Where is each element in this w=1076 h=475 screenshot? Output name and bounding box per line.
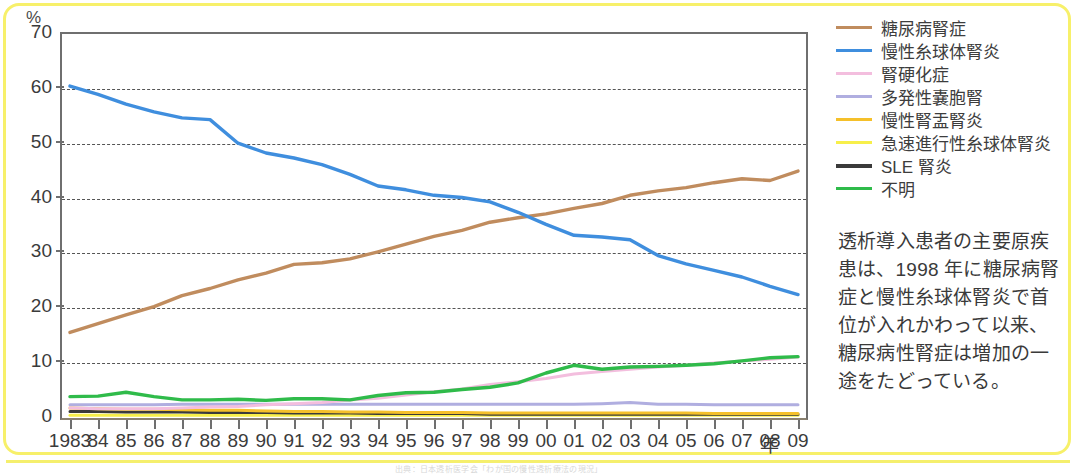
x-tick-label-84: 84	[87, 430, 108, 452]
legend-item-4[interactable]: 慢性腎盂腎炎	[836, 108, 1068, 131]
x-tick-label-06: 06	[703, 430, 724, 452]
caption-text: 透析導入患者の主要原疾患は、1998 年に糖尿病腎症と慢性糸球体腎炎で首位が入れ…	[838, 228, 1064, 396]
x-tick-label-97: 97	[451, 430, 472, 452]
x-tick-mark-93	[350, 420, 352, 429]
x-tick-label-00: 00	[535, 430, 556, 452]
x-tick-mark-97	[462, 420, 464, 429]
x-tick-label-98: 98	[479, 430, 500, 452]
legend-item-6[interactable]: SLE 腎炎	[836, 154, 1068, 177]
chart-page: 出典：日本透析医学会「わが国の慢性透析療法の現況」 % 010203040506…	[0, 0, 1076, 475]
x-tick-mark-04	[658, 420, 660, 429]
x-tick-label-95: 95	[395, 430, 416, 452]
x-tick-label-04: 04	[647, 430, 668, 452]
x-tick-mark-07	[742, 420, 744, 429]
legend-label: 糖尿病腎症	[881, 15, 966, 40]
x-tick-label-89: 89	[227, 430, 248, 452]
x-tick-mark-99	[518, 420, 520, 429]
legend-label: 急速進行性糸球体腎炎	[881, 130, 1051, 155]
series-line-3	[70, 403, 798, 405]
legend-swatch-icon	[836, 49, 872, 52]
y-tick-label-60: 60	[6, 76, 52, 98]
x-tick-label-02: 02	[591, 430, 612, 452]
chart-legend: 糖尿病腎症慢性糸球体腎炎腎硬化症多発性嚢胞腎慢性腎盂腎炎急速進行性糸球体腎炎SL…	[836, 16, 1068, 200]
legend-swatch-icon	[836, 26, 872, 29]
x-tick-label-87: 87	[171, 430, 192, 452]
x-tick-label-85: 85	[115, 430, 136, 452]
y-tick-label-30: 30	[6, 240, 52, 262]
x-tick-mark-09	[798, 420, 800, 429]
legend-swatch-icon	[836, 72, 872, 75]
y-tick-label-50: 50	[6, 131, 52, 153]
x-tick-label-96: 96	[423, 430, 444, 452]
x-tick-mark-85	[126, 420, 128, 429]
x-tick-label-09: 09	[787, 430, 808, 452]
legend-swatch-icon	[836, 95, 872, 98]
x-tick-label-03: 03	[619, 430, 640, 452]
legend-label: 腎硬化症	[881, 61, 949, 86]
footer-source-text: 出典：日本透析医学会「わが国の慢性透析療法の現況」	[395, 465, 995, 474]
x-tick-mark-89	[238, 420, 240, 429]
x-tick-label-86: 86	[143, 430, 164, 452]
x-tick-mark-96	[434, 420, 436, 429]
y-axis-tick-labels: 010203040506070	[0, 32, 52, 420]
legend-swatch-icon	[836, 141, 872, 144]
x-tick-mark-02	[602, 420, 604, 429]
series-lines	[62, 34, 806, 418]
x-tick-mark-05	[686, 420, 688, 429]
legend-label: 慢性腎盂腎炎	[881, 107, 983, 132]
x-tick-mark-90	[266, 420, 268, 429]
legend-item-0[interactable]: 糖尿病腎症	[836, 16, 1068, 39]
y-tick-mark-20	[56, 305, 64, 307]
legend-item-1[interactable]: 慢性糸球体腎炎	[836, 39, 1068, 62]
y-tick-label-0: 0	[6, 405, 52, 427]
x-tick-mark-95	[406, 420, 408, 429]
line-chart: % 010203040506070 1983848586878889909192…	[0, 0, 830, 455]
y-tick-label-40: 40	[6, 186, 52, 208]
x-tick-mark-06	[714, 420, 716, 429]
x-axis: 1983848586878889909192939495969798990001…	[60, 420, 810, 454]
x-tick-label-99: 99	[507, 430, 528, 452]
x-tick-label-90: 90	[255, 430, 276, 452]
y-tick-mark-50	[56, 141, 64, 143]
x-tick-mark-92	[322, 420, 324, 429]
x-tick-mark-88	[210, 420, 212, 429]
x-tick-label-88: 88	[199, 430, 220, 452]
legend-item-3[interactable]: 多発性嚢胞腎	[836, 85, 1068, 108]
x-tick-mark-01	[574, 420, 576, 429]
y-tick-mark-40	[56, 196, 64, 198]
x-tick-label-01: 01	[563, 430, 584, 452]
x-tick-mark-03	[630, 420, 632, 429]
legend-item-2[interactable]: 腎硬化症	[836, 62, 1068, 85]
y-tick-label-20: 20	[6, 295, 52, 317]
y-tick-label-10: 10	[6, 350, 52, 372]
y-tick-label-70: 70	[6, 21, 52, 43]
legend-item-5[interactable]: 急速進行性糸球体腎炎	[836, 131, 1068, 154]
x-tick-label-92: 92	[311, 430, 332, 452]
legend-label: 慢性糸球体腎炎	[881, 38, 1000, 63]
legend-swatch-icon	[836, 187, 872, 190]
y-tick-mark-10	[56, 360, 64, 362]
x-tick-mark-1983	[70, 420, 72, 429]
x-tick-mark-00	[546, 420, 548, 429]
legend-label: 多発性嚢胞腎	[881, 84, 983, 109]
plot-area	[60, 32, 808, 420]
x-tick-mark-87	[182, 420, 184, 429]
y-tick-mark-60	[56, 86, 64, 88]
x-tick-label-07: 07	[731, 430, 752, 452]
series-line-7	[70, 357, 798, 401]
legend-swatch-icon	[836, 164, 872, 168]
legend-label: 不明	[881, 176, 915, 201]
series-line-1	[70, 86, 798, 295]
x-tick-mark-91	[294, 420, 296, 429]
x-tick-mark-08	[770, 420, 772, 429]
x-tick-label-93: 93	[339, 430, 360, 452]
x-axis-unit-label: 年	[760, 430, 779, 457]
x-tick-label-91: 91	[283, 430, 304, 452]
legend-item-7[interactable]: 不明	[836, 177, 1068, 200]
page-bottom-rule	[6, 460, 1070, 463]
x-tick-mark-86	[154, 420, 156, 429]
x-tick-mark-94	[378, 420, 380, 429]
x-tick-mark-98	[490, 420, 492, 429]
x-tick-mark-84	[98, 420, 100, 429]
legend-swatch-icon	[836, 118, 872, 121]
